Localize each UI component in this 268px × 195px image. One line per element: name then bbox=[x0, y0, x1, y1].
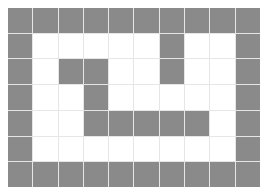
empty-cell[interactable] bbox=[210, 59, 234, 84]
wall-cell[interactable] bbox=[59, 8, 83, 33]
wall-cell[interactable] bbox=[210, 162, 234, 187]
empty-cell[interactable] bbox=[109, 137, 133, 162]
wall-cell[interactable] bbox=[185, 8, 209, 33]
empty-cell[interactable] bbox=[134, 34, 158, 59]
wall-cell[interactable] bbox=[84, 59, 108, 84]
wall-cell[interactable] bbox=[236, 59, 260, 84]
empty-cell[interactable] bbox=[134, 59, 158, 84]
wall-cell[interactable] bbox=[109, 111, 133, 136]
wall-cell[interactable] bbox=[8, 137, 32, 162]
empty-cell[interactable] bbox=[109, 34, 133, 59]
wall-cell[interactable] bbox=[185, 162, 209, 187]
wall-cell[interactable] bbox=[109, 8, 133, 33]
wall-cell[interactable] bbox=[84, 162, 108, 187]
wall-cell[interactable] bbox=[59, 59, 83, 84]
empty-cell[interactable] bbox=[134, 85, 158, 110]
wall-cell[interactable] bbox=[236, 34, 260, 59]
empty-cell[interactable] bbox=[59, 85, 83, 110]
empty-cell[interactable] bbox=[109, 59, 133, 84]
empty-cell[interactable] bbox=[59, 111, 83, 136]
wall-cell[interactable] bbox=[160, 34, 184, 59]
wall-cell[interactable] bbox=[160, 162, 184, 187]
empty-cell[interactable] bbox=[59, 34, 83, 59]
empty-cell[interactable] bbox=[210, 34, 234, 59]
wall-cell[interactable] bbox=[8, 8, 32, 33]
empty-cell[interactable] bbox=[185, 34, 209, 59]
wall-cell[interactable] bbox=[8, 162, 32, 187]
empty-cell[interactable] bbox=[33, 137, 57, 162]
empty-cell[interactable] bbox=[160, 137, 184, 162]
wall-cell[interactable] bbox=[160, 8, 184, 33]
empty-cell[interactable] bbox=[33, 85, 57, 110]
empty-cell[interactable] bbox=[109, 85, 133, 110]
wall-cell[interactable] bbox=[134, 162, 158, 187]
wall-cell[interactable] bbox=[8, 111, 32, 136]
wall-cell[interactable] bbox=[8, 34, 32, 59]
wall-cell[interactable] bbox=[84, 8, 108, 33]
wall-cell[interactable] bbox=[109, 162, 133, 187]
empty-cell[interactable] bbox=[160, 85, 184, 110]
empty-cell[interactable] bbox=[84, 137, 108, 162]
wall-cell[interactable] bbox=[33, 8, 57, 33]
empty-cell[interactable] bbox=[33, 111, 57, 136]
wall-cell[interactable] bbox=[236, 8, 260, 33]
wall-cell[interactable] bbox=[160, 59, 184, 84]
wall-cell[interactable] bbox=[160, 111, 184, 136]
wall-cell[interactable] bbox=[236, 162, 260, 187]
empty-cell[interactable] bbox=[33, 34, 57, 59]
empty-cell[interactable] bbox=[185, 59, 209, 84]
wall-cell[interactable] bbox=[134, 111, 158, 136]
wall-cell[interactable] bbox=[59, 162, 83, 187]
wall-cell[interactable] bbox=[84, 111, 108, 136]
empty-cell[interactable] bbox=[134, 137, 158, 162]
wall-cell[interactable] bbox=[236, 85, 260, 110]
empty-cell[interactable] bbox=[210, 85, 234, 110]
empty-cell[interactable] bbox=[210, 137, 234, 162]
wall-cell[interactable] bbox=[134, 8, 158, 33]
wall-cell[interactable] bbox=[8, 59, 32, 84]
wall-cell[interactable] bbox=[236, 111, 260, 136]
wall-cell[interactable] bbox=[8, 85, 32, 110]
empty-cell[interactable] bbox=[59, 137, 83, 162]
empty-cell[interactable] bbox=[185, 137, 209, 162]
wall-cell[interactable] bbox=[236, 137, 260, 162]
wall-cell[interactable] bbox=[33, 162, 57, 187]
wall-cell[interactable] bbox=[210, 8, 234, 33]
empty-cell[interactable] bbox=[185, 85, 209, 110]
empty-cell[interactable] bbox=[33, 59, 57, 84]
empty-cell[interactable] bbox=[210, 111, 234, 136]
wall-cell[interactable] bbox=[84, 85, 108, 110]
wall-cell[interactable] bbox=[185, 111, 209, 136]
empty-cell[interactable] bbox=[84, 34, 108, 59]
maze-grid bbox=[8, 8, 260, 187]
